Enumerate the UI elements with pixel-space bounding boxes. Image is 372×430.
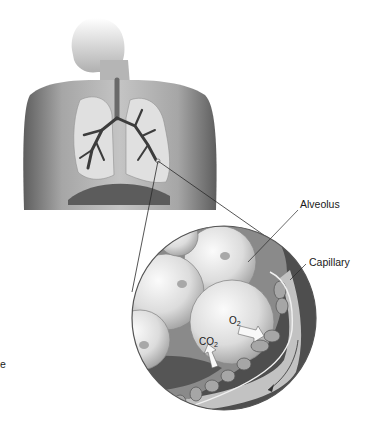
cropped-text-fragment: e (0, 358, 6, 370)
torso-illustration (23, 18, 216, 210)
o2-label: O2 (229, 315, 241, 327)
right-lung (74, 97, 114, 179)
o2-symbol: O (229, 315, 237, 326)
o2-subscript: 2 (237, 320, 241, 327)
co2-subscript: 2 (214, 341, 218, 348)
respiratory-system-diagram (0, 0, 372, 430)
co2-symbol: CO (199, 336, 214, 347)
alveolus-label: Alveolus (300, 198, 340, 210)
capillary-label: Capillary (309, 256, 350, 268)
co2-label: CO2 (199, 336, 218, 348)
